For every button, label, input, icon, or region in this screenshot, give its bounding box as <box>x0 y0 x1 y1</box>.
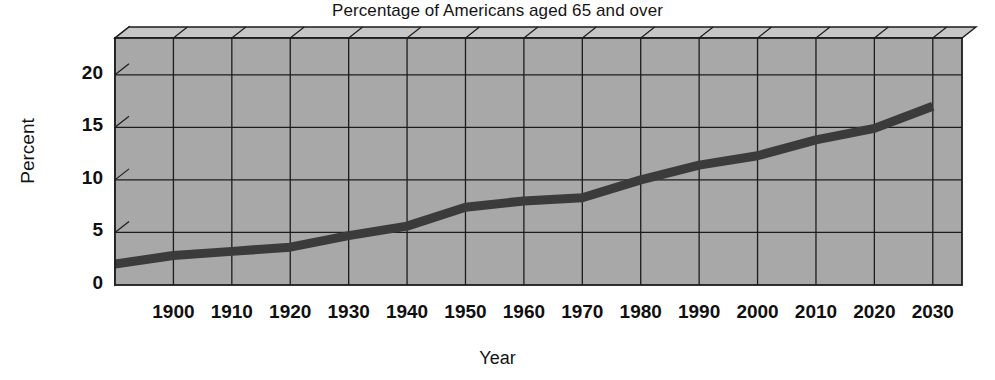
chart-container: Percentage of Americans aged 65 and over… <box>0 0 995 380</box>
y-tick-label: 20 <box>57 62 103 84</box>
y-tick-label: 15 <box>57 114 103 136</box>
plot-area <box>0 0 995 380</box>
y-tick-label: 10 <box>57 167 103 189</box>
y-tick-label: 5 <box>57 219 103 241</box>
x-tick-label: 2030 <box>898 301 968 323</box>
y-tick-label: 0 <box>57 272 103 294</box>
